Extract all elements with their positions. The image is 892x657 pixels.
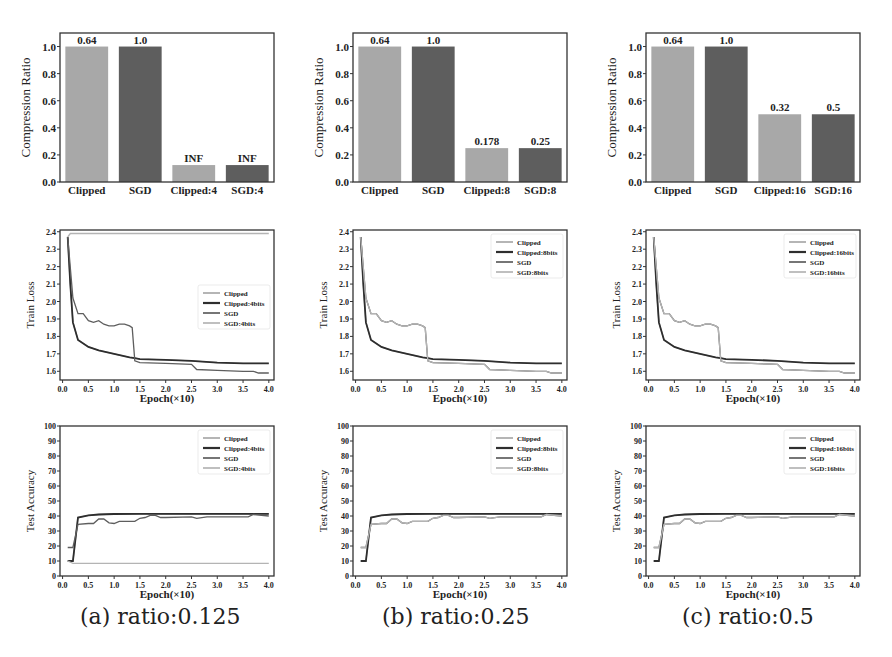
y-tick-label: 80 <box>48 452 56 461</box>
y-axis-label: Train Loss <box>317 282 329 329</box>
y-axis-label: Compression Ratio <box>18 57 33 157</box>
x-tick-label: 0.0 <box>644 385 654 394</box>
bar-value-label: 0.64 <box>663 34 683 46</box>
legend-entry: SGD <box>517 259 531 267</box>
series-sgd <box>68 515 269 548</box>
bar-clipped <box>65 47 108 182</box>
y-tick-label: 1.8 <box>632 332 642 341</box>
y-axis-label: Test Accuracy <box>317 469 329 532</box>
x-tick-label: 4.0 <box>850 385 860 394</box>
legend-entry: SGD <box>224 310 238 318</box>
y-tick-label: 50 <box>341 497 349 506</box>
bar-clipped-8 <box>465 148 508 182</box>
x-tick-label: Clipped <box>361 184 398 196</box>
legend-entry: Clipped:16bits <box>810 249 854 257</box>
x-tick-label: 4.0 <box>264 581 274 590</box>
y-tick-label: 50 <box>48 497 56 506</box>
y-tick-label: 10 <box>634 557 642 566</box>
y-tick-label: 1.0 <box>335 41 349 53</box>
legend: ClippedClipped:8bitsSGDSGD:8bits <box>491 430 563 474</box>
y-tick-label: 1.7 <box>339 350 349 359</box>
x-tick-label: 4.0 <box>850 581 860 590</box>
y-tick-label: 1.8 <box>46 332 56 341</box>
bar-clipped-16 <box>758 114 801 182</box>
series-clipped <box>361 514 562 561</box>
x-tick-label: 0.5 <box>83 581 93 590</box>
bar-value-label: 1.0 <box>426 34 440 46</box>
y-tick-label: 2.3 <box>339 245 349 254</box>
x-tick-label: SGD <box>129 184 152 196</box>
x-tick-label: 3.0 <box>212 581 222 590</box>
y-tick-label: 1.6 <box>339 367 349 376</box>
x-tick-label: 0.5 <box>376 385 386 394</box>
x-tick-label: SGD <box>715 184 738 196</box>
bar-clipped-4 <box>172 165 215 182</box>
y-tick-label: 70 <box>341 467 349 476</box>
y-axis-label: Train Loss <box>610 282 622 329</box>
x-tick-label: SGD:8 <box>524 184 556 196</box>
y-axis-label: Train Loss <box>24 282 36 329</box>
chart-c-compression: 0.64Clipped1.0SGD0.32Clipped:160.5SGD:16… <box>604 33 860 196</box>
x-tick-label: 1.0 <box>109 385 119 394</box>
series-clipped <box>68 514 269 561</box>
y-tick-label: 30 <box>634 527 642 536</box>
bar-clipped <box>651 47 694 182</box>
legend-entry: SGD:4bits <box>224 320 255 328</box>
x-tick-label: Clipped:16 <box>754 184 806 196</box>
legend-entry: Clipped <box>810 239 834 247</box>
y-tick-label: 2.2 <box>632 263 642 272</box>
bar-sgd-4 <box>226 165 269 182</box>
bar-value-label: 0.64 <box>370 34 390 46</box>
y-tick-label: 1.7 <box>46 350 56 359</box>
y-tick-label: 0.6 <box>42 95 56 107</box>
legend-entry: Clipped <box>224 290 248 298</box>
y-tick-label: 0 <box>638 572 642 581</box>
bar-value-label: 0.25 <box>531 135 551 147</box>
plot-grid: 0.64Clipped1.0SGDINFClipped:4INFSGD:40.0… <box>0 0 892 600</box>
x-tick-label: 1.0 <box>402 581 412 590</box>
y-tick-label: 90 <box>48 437 56 446</box>
y-tick-label: 2.2 <box>46 263 56 272</box>
y-tick-label: 20 <box>634 542 642 551</box>
y-tick-label: 2.0 <box>46 298 56 307</box>
y-tick-label: 0.8 <box>335 68 349 80</box>
x-tick-label: 0.0 <box>644 581 654 590</box>
x-tick-label: 0.5 <box>83 385 93 394</box>
x-tick-label: SGD:16 <box>815 184 853 196</box>
bar-value-label: 0.32 <box>770 101 790 113</box>
y-tick-label: 0.4 <box>42 122 56 134</box>
x-tick-label: 0.5 <box>669 385 679 394</box>
y-tick-label: 1.8 <box>339 332 349 341</box>
y-tick-label: 0.2 <box>42 149 56 161</box>
series-clipped <box>654 514 855 561</box>
bar-sgd <box>119 47 162 182</box>
legend-entry: Clipped <box>517 239 541 247</box>
bar-sgd <box>705 47 748 182</box>
x-tick-label: SGD:4 <box>231 184 263 196</box>
y-tick-label: 2.1 <box>632 280 642 289</box>
y-tick-label: 90 <box>634 437 642 446</box>
legend: ClippedClipped:8bitsSGDSGD:8bits <box>491 234 563 278</box>
series-sgd-4bits <box>68 234 269 238</box>
x-tick-label: 3.0 <box>798 581 808 590</box>
y-tick-label: 0.2 <box>628 149 642 161</box>
y-tick-label: 2.2 <box>339 263 349 272</box>
series-sgd-8bits <box>361 515 562 548</box>
y-axis-label: Test Accuracy <box>24 469 36 532</box>
y-tick-label: 2.3 <box>46 245 56 254</box>
y-tick-label: 0.0 <box>335 176 349 188</box>
bar-sgd <box>412 47 455 182</box>
bar-value-label: 0.64 <box>77 34 97 46</box>
legend-entry: Clipped <box>810 435 834 443</box>
y-tick-label: 2.0 <box>339 298 349 307</box>
chart-b-train-loss: 0.00.51.01.52.02.53.03.54.01.61.71.81.92… <box>317 228 567 405</box>
legend: ClippedClipped:16bitsSGDSGD:16bits <box>784 430 856 474</box>
caption-c: (c) ratio:0.5 <box>682 604 814 629</box>
x-axis-label: Epoch(×10) <box>433 588 488 600</box>
x-tick-label: 4.0 <box>264 385 274 394</box>
y-tick-label: 0 <box>345 572 349 581</box>
caption-b: (b) ratio:0.25 <box>382 604 529 629</box>
x-tick-label: 3.5 <box>238 581 248 590</box>
y-tick-label: 80 <box>341 452 349 461</box>
legend-entry: SGD <box>517 455 531 463</box>
